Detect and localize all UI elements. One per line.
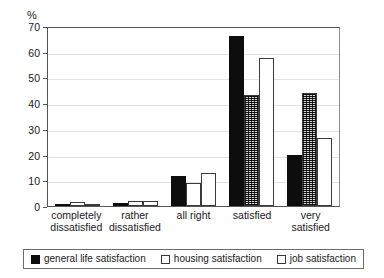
y-axis-tick-label: 10	[0, 176, 40, 187]
y-axis-tick-mark	[43, 130, 47, 131]
bar	[55, 204, 70, 206]
bar	[70, 202, 85, 206]
x-axis-label-line: completely	[47, 210, 106, 222]
bar	[302, 93, 317, 206]
x-axis-label: satisfied	[223, 210, 282, 240]
bar	[317, 138, 332, 206]
bar	[259, 58, 274, 206]
bar-group	[55, 28, 100, 206]
y-axis-tick-mark	[43, 53, 47, 54]
y-axis-tick-label: 20	[0, 151, 40, 162]
y-axis-tick-label: 0	[0, 202, 40, 213]
legend-entry: job satisfaction	[277, 254, 356, 264]
x-axis-label-line: rather	[106, 210, 165, 222]
bar	[128, 201, 143, 206]
legend-swatch-white	[161, 255, 170, 264]
y-axis-tick-mark	[43, 27, 47, 28]
x-axis-label-line: very	[281, 210, 340, 222]
bar	[244, 95, 259, 206]
y-axis-tick-mark	[43, 156, 47, 157]
bar	[113, 203, 128, 206]
bar	[229, 36, 244, 206]
legend-swatch-white	[277, 255, 286, 264]
legend-swatch-black	[31, 255, 40, 264]
y-axis-tick-label: 30	[0, 125, 40, 136]
bar	[171, 176, 186, 206]
x-axis-label: verysatisfied	[281, 210, 340, 240]
plot-area	[47, 27, 340, 207]
x-axis-label-line: satisfied	[223, 210, 282, 222]
y-axis-tick-mark	[43, 181, 47, 182]
legend: general life satisfactionhousing satisfa…	[23, 249, 364, 269]
bar-chart-figure: % completelydissatisfiedratherdissatisfi…	[0, 0, 384, 278]
y-axis-unit-label: %	[27, 10, 37, 21]
x-axis-label: completelydissatisfied	[47, 210, 106, 240]
bar-group	[287, 28, 332, 206]
bar-group	[229, 28, 274, 206]
y-axis-tick-label: 40	[0, 99, 40, 110]
y-axis-tick-label: 60	[0, 48, 40, 59]
x-axis-label-line: all right	[164, 210, 223, 222]
bar-group	[171, 28, 216, 206]
legend-label: general life satisfaction	[44, 254, 146, 264]
legend-label: housing satisfaction	[174, 254, 262, 264]
legend-label: job satisfaction	[290, 254, 356, 264]
legend-entry: general life satisfaction	[31, 254, 146, 264]
x-axis-label: ratherdissatisfied	[106, 210, 165, 240]
bar	[186, 183, 201, 206]
x-axis-label: all right	[164, 210, 223, 240]
y-axis-tick-label: 50	[0, 73, 40, 84]
y-axis-tick-mark	[43, 78, 47, 79]
x-axis-label-line: dissatisfied	[106, 222, 165, 234]
y-axis-tick-mark	[43, 207, 47, 208]
bar	[201, 173, 216, 206]
y-axis-tick-label: 70	[0, 22, 40, 33]
bar	[85, 204, 100, 206]
bar-groups	[48, 28, 339, 206]
x-axis-label-line: satisfied	[281, 222, 340, 234]
legend-entry: housing satisfaction	[161, 254, 262, 264]
x-axis-label-line: dissatisfied	[47, 222, 106, 234]
bar	[143, 201, 158, 206]
bar	[287, 155, 302, 206]
y-axis-tick-mark	[43, 104, 47, 105]
x-axis-category-labels: completelydissatisfiedratherdissatisfied…	[47, 210, 340, 240]
bar-group	[113, 28, 158, 206]
